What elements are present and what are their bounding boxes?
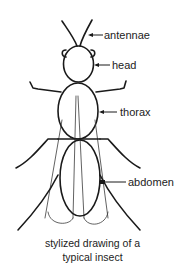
label-abdomen: abdomen xyxy=(128,176,174,188)
label-thorax: thorax xyxy=(120,106,151,118)
head-shape xyxy=(62,46,95,82)
abdomen-shape xyxy=(60,140,100,216)
antennae-shape xyxy=(62,20,92,46)
hind-legs xyxy=(18,175,140,230)
caption-line-1: stylized drawing of a xyxy=(0,237,185,250)
caption-line-2: typical insect xyxy=(0,251,185,264)
label-antennae: antennae xyxy=(104,29,150,41)
thorax-shape xyxy=(58,83,98,139)
insect-diagram xyxy=(0,0,185,272)
label-head: head xyxy=(112,59,136,71)
middle-legs xyxy=(16,139,140,168)
